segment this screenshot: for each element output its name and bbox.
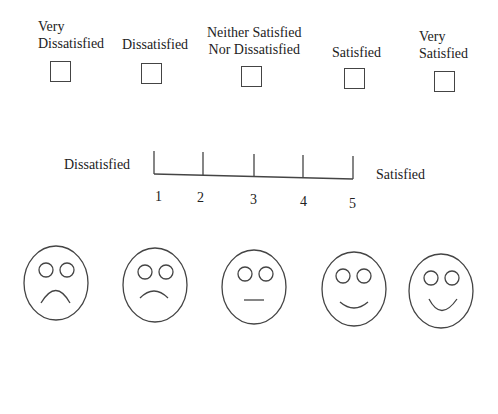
sad-face-icon[interactable]	[123, 248, 187, 322]
happy-face-icon[interactable]	[322, 252, 386, 326]
very-sad-face-icon[interactable]	[24, 246, 88, 320]
face-scale	[0, 0, 498, 414]
neutral-face-icon[interactable]	[222, 250, 286, 324]
very-happy-face-icon[interactable]	[409, 254, 473, 328]
